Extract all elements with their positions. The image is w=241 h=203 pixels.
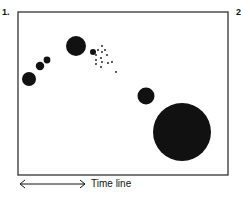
circle-4: [90, 49, 96, 55]
particle-dots: [95, 45, 117, 73]
dot-6: [100, 57, 102, 59]
dot-1: [97, 49, 99, 51]
time-arrow-icon: [20, 180, 85, 188]
dot-8: [95, 63, 97, 65]
dot-9: [101, 61, 103, 63]
dot-7: [106, 54, 108, 56]
dot-5: [95, 59, 97, 61]
dot-11: [107, 62, 109, 64]
circle-2: [44, 57, 51, 64]
circle-5: [138, 88, 155, 105]
circle-group: [22, 36, 211, 161]
dot-4: [104, 49, 106, 51]
dot-12: [111, 61, 113, 63]
dot-13: [115, 71, 117, 73]
circle-3: [66, 36, 86, 56]
circle-6: [153, 103, 211, 161]
circle-1: [36, 62, 44, 70]
dot-10: [100, 66, 102, 68]
diagram-canvas: [0, 0, 241, 203]
circle-0: [22, 72, 36, 86]
time-line-label: Time line: [91, 178, 131, 190]
dot-0: [101, 45, 103, 47]
dot-3: [101, 51, 103, 53]
dot-2: [95, 54, 97, 56]
